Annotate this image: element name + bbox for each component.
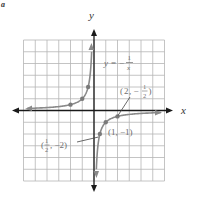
label-point-1-neg-1: (1, −1) <box>108 127 133 137</box>
svg-text:y: y <box>103 58 108 68</box>
svg-text:2: 2 <box>45 146 48 153</box>
y-axis-down-arrow-icon <box>91 185 97 192</box>
x-axis-label: x <box>180 104 186 116</box>
curve-top-end-arrow-icon <box>89 43 95 50</box>
corner-mark: a <box>1 0 5 9</box>
svg-text:=: = <box>111 58 116 68</box>
label-point-half-neg-2: ( 1 2 , −2) <box>41 137 99 153</box>
graph-figure: a x y y = − 1 x ( 2 , − 1 2 ) (1 <box>0 0 199 200</box>
svg-text:2: 2 <box>124 86 129 96</box>
svg-text:1: 1 <box>128 54 132 62</box>
x-axis-left-arrow-icon <box>12 108 19 114</box>
marked-point <box>104 120 108 124</box>
leader-line <box>118 97 130 116</box>
marked-point <box>80 97 84 101</box>
x-axis-right-arrow-icon <box>166 108 173 114</box>
equation-label: y = − 1 x <box>103 54 133 72</box>
svg-text:): ) <box>149 86 152 96</box>
svg-text:(: ( <box>41 140 44 150</box>
svg-text:, −2): , −2) <box>50 140 67 150</box>
marked-point <box>115 114 119 118</box>
svg-text:1: 1 <box>143 83 146 90</box>
svg-text:, −: , − <box>129 86 139 96</box>
y-axis-up-arrow-icon <box>91 29 97 36</box>
svg-text:(: ( <box>120 86 123 96</box>
y-axis-label: y <box>88 9 94 21</box>
leader-line <box>77 137 99 142</box>
marked-point <box>68 102 72 106</box>
marked-point <box>86 85 90 89</box>
svg-text:2: 2 <box>143 92 146 99</box>
svg-text:−: − <box>119 58 124 68</box>
svg-text:1: 1 <box>45 137 48 144</box>
svg-text:x: x <box>126 64 131 72</box>
marked-point <box>98 132 102 136</box>
